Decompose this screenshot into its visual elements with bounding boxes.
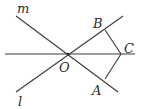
label-l: l [18, 94, 22, 109]
point-o-marker [67, 53, 69, 55]
label-c: C [124, 41, 134, 56]
label-b: B [92, 16, 103, 31]
label-a: A [91, 83, 101, 98]
label-m: m [17, 1, 29, 16]
label-o: O [59, 60, 70, 75]
geometry-diagram: m l O B C A [0, 0, 144, 109]
segment-bc [105, 30, 121, 54]
segment-ac [105, 54, 121, 79]
